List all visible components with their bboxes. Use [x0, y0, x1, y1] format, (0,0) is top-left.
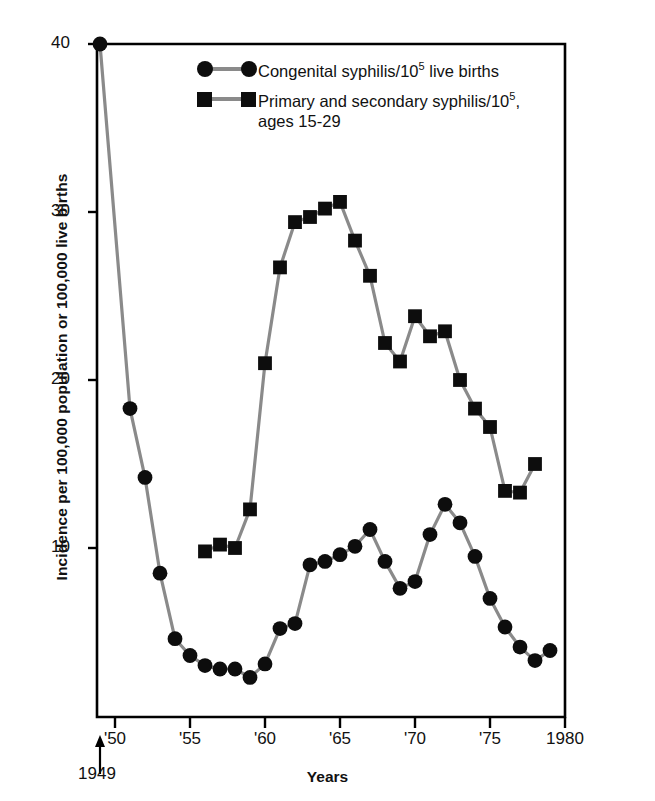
data-point-circle — [168, 631, 183, 646]
data-point-circle — [348, 539, 363, 554]
data-point-square — [198, 545, 212, 559]
data-point-square — [228, 541, 242, 555]
x-tick-label-1970: '70 — [385, 729, 445, 749]
data-point-square — [258, 356, 272, 370]
data-point-circle — [513, 640, 528, 655]
data-point-circle — [243, 670, 258, 685]
data-point-square — [303, 210, 317, 224]
data-point-square — [363, 269, 377, 283]
data-point-circle — [228, 662, 243, 677]
data-point-circle — [468, 549, 483, 564]
x-tick-label-1950: '50 — [85, 729, 145, 749]
data-point-square — [423, 329, 437, 343]
data-point-circle — [378, 554, 393, 569]
legend-label-ps-part2: , — [515, 91, 520, 109]
data-point-square — [243, 503, 257, 517]
data-point-circle — [123, 401, 138, 416]
data-point-square — [213, 538, 227, 552]
axes-frame — [97, 44, 565, 717]
y-tick-label-10: 10 — [30, 537, 70, 557]
legend-label-primary-secondary: Primary and secondary syphilis/105,ages … — [258, 86, 520, 133]
legend-label-ps-line2: ages 15-29 — [258, 111, 520, 132]
x-tick-label-1965: '65 — [310, 729, 370, 749]
data-point-square — [333, 195, 347, 209]
data-point-circle — [498, 620, 513, 635]
data-point-circle — [93, 37, 108, 52]
data-point-square — [498, 484, 512, 498]
data-point-square — [438, 324, 452, 338]
data-point-circle — [543, 643, 558, 658]
data-point-circle — [288, 616, 303, 631]
legend-item-congenital: Congenital syphilis/105 live births — [196, 56, 520, 82]
data-point-square — [513, 486, 527, 500]
legend-label-congenital-part2: live births — [425, 62, 499, 80]
series-line — [100, 44, 550, 677]
data-point-circle — [153, 566, 168, 581]
data-point-circle — [453, 515, 468, 530]
data-point-square — [483, 420, 497, 434]
legend-label-ps-part1: Primary and secondary syphilis/10 — [258, 91, 509, 109]
data-point-square — [348, 234, 362, 248]
data-point-circle — [303, 557, 318, 572]
data-point-circle — [408, 574, 423, 589]
data-point-square — [468, 402, 482, 416]
y-tick-label-30: 30 — [30, 201, 70, 221]
data-point-circle — [198, 658, 213, 673]
data-point-circle — [393, 581, 408, 596]
series-line — [205, 202, 535, 552]
x-tick-label-1975: '75 — [460, 729, 520, 749]
legend-label-congenital-part1: Congenital syphilis/10 — [258, 62, 419, 80]
data-point-circle — [438, 497, 453, 512]
data-point-circle — [423, 527, 438, 542]
data-point-square — [528, 457, 542, 471]
data-point-circle — [183, 648, 198, 663]
data-point-circle — [528, 653, 543, 668]
origin-year-annotation: 1949 — [62, 764, 132, 784]
chart-legend: Congenital syphilis/105 live births Prim… — [196, 56, 520, 136]
data-point-square — [408, 309, 422, 323]
x-tick-label-1960: '60 — [235, 729, 295, 749]
data-point-circle — [273, 621, 288, 636]
data-point-circle — [333, 547, 348, 562]
data-point-square — [393, 355, 407, 369]
y-tick-label-40: 40 — [30, 33, 70, 53]
legend-label-congenital: Congenital syphilis/105 live births — [258, 56, 499, 82]
data-point-circle — [318, 554, 333, 569]
data-point-square — [318, 202, 332, 216]
axes-layer — [88, 44, 565, 774]
legend-circle-marker-icon — [196, 58, 258, 79]
x-tick-label-1980: 1980 — [535, 729, 595, 749]
data-point-square — [288, 215, 302, 229]
series-primary-secondary — [198, 195, 542, 558]
data-point-square — [273, 261, 287, 275]
data-point-circle — [258, 657, 273, 672]
y-tick-label-20: 20 — [30, 369, 70, 389]
data-point-circle — [138, 470, 153, 485]
legend-square-marker-icon — [196, 88, 258, 109]
data-point-square — [453, 373, 467, 387]
data-point-circle — [213, 662, 228, 677]
data-point-circle — [483, 591, 498, 606]
legend-item-primary-secondary: Primary and secondary syphilis/105,ages … — [196, 86, 520, 133]
data-point-circle — [363, 522, 378, 537]
chart-figure: Incidence per 100,000 population or 100,… — [0, 0, 655, 801]
x-tick-label-1955: '55 — [160, 729, 220, 749]
data-point-square — [378, 336, 392, 350]
